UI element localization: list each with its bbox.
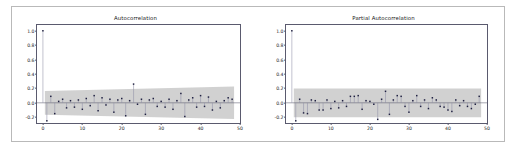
y-tick-label: 0.6 [276, 57, 283, 62]
stem-marker [416, 95, 417, 96]
stem-marker [346, 106, 347, 107]
stem-marker [125, 115, 126, 116]
stem-marker [58, 101, 59, 102]
stem-marker [354, 96, 355, 97]
y-tick-label: 1.0 [27, 28, 34, 33]
stem-marker [200, 95, 201, 96]
y-tick-mark [284, 45, 286, 46]
stem-marker [377, 119, 378, 120]
x-tick-label: 50 [237, 126, 243, 131]
y-tick-label: 0.6 [27, 57, 34, 62]
y-tick-mark [35, 117, 37, 118]
stem-marker [436, 99, 437, 100]
stem-marker [365, 100, 366, 101]
stem-marker [408, 111, 409, 112]
stem-marker [369, 101, 370, 102]
stem-marker [385, 91, 386, 92]
stem-marker [137, 104, 138, 105]
stem-marker [311, 99, 312, 100]
y-tick-label: 0.4 [276, 72, 283, 77]
stem-marker [192, 97, 193, 98]
stem-marker [121, 98, 122, 99]
stem-marker [105, 104, 106, 105]
y-tick-label: 0.0 [27, 100, 34, 105]
y-tick-mark [35, 74, 37, 75]
x-tick-mark [409, 123, 410, 125]
stem-marker [149, 99, 150, 100]
y-tick-mark [284, 74, 286, 75]
stem-marker [443, 106, 444, 107]
x-tick-mark [370, 123, 371, 125]
stem-marker [66, 107, 67, 108]
y-tick-label: 0.2 [27, 86, 34, 91]
stem-marker [89, 105, 90, 106]
y-tick-label: 0.0 [276, 100, 283, 105]
stem-marker [133, 83, 134, 84]
stem-marker [180, 93, 181, 94]
stem-marker [93, 95, 94, 96]
y-tick-label: -0.2 [275, 115, 284, 120]
stem-marker [420, 106, 421, 107]
stem-marker [424, 99, 425, 100]
stem-marker [447, 109, 448, 110]
stem-marker [350, 96, 351, 97]
panel-partial-autocorrelation: Partial Autocorrelation -0.20.00.20.40.6… [259, 7, 506, 143]
y-tick-mark [35, 59, 37, 60]
x-tick-mark [121, 123, 122, 125]
stem-marker [172, 109, 173, 110]
y-tick-mark [284, 102, 286, 103]
stem-marker [168, 98, 169, 99]
stem-marker [184, 116, 185, 117]
stem-marker [50, 96, 51, 97]
stem-marker [389, 114, 390, 115]
y-tick-label: -0.2 [26, 115, 35, 120]
stem-marker [113, 111, 114, 112]
stem-marker [361, 109, 362, 110]
x-tick-mark [331, 123, 332, 125]
stem-marker [475, 104, 476, 105]
stem-marker [153, 98, 154, 99]
stem-marker [400, 96, 401, 97]
stem-marker [338, 107, 339, 108]
stem-marker [478, 96, 479, 97]
y-tick-mark [284, 59, 286, 60]
stem-marker [78, 99, 79, 100]
stem-marker [318, 109, 319, 110]
x-tick-mark [448, 123, 449, 125]
x-tick-label: 30 [406, 126, 412, 131]
x-tick-label: 20 [367, 126, 373, 131]
x-tick-label: 10 [328, 126, 334, 131]
y-tick-mark [284, 117, 286, 118]
stem-marker [393, 99, 394, 100]
stem-marker [471, 108, 472, 109]
stem-marker [97, 110, 98, 111]
stem-marker [330, 108, 331, 109]
x-tick-mark [43, 123, 44, 125]
panel-title-autocorrelation: Autocorrelation [30, 15, 241, 21]
panel-title-partial-autocorrelation: Partial Autocorrelation [279, 15, 488, 21]
stem-marker [220, 107, 221, 108]
x-tick-label: 0 [41, 126, 44, 131]
stem-marker [117, 99, 118, 100]
correlogram-figure: Autocorrelation -0.20.00.20.40.60.81.001… [0, 0, 515, 153]
panel-autocorrelation: Autocorrelation -0.20.00.20.40.60.81.001… [12, 7, 259, 143]
stem-marker [322, 109, 323, 110]
x-tick-mark [161, 123, 162, 125]
x-tick-label: 10 [79, 126, 85, 131]
stem-marker [326, 99, 327, 100]
stem-marker [212, 109, 213, 110]
stem-marker [439, 106, 440, 107]
stem-marker [307, 113, 308, 114]
stem-marker [42, 30, 43, 31]
x-tick-mark [292, 123, 293, 125]
x-tick-label: 40 [445, 126, 451, 131]
plot-svg-partial-autocorrelation [286, 25, 487, 123]
plot-area-partial-autocorrelation [286, 25, 487, 123]
y-tick-label: 0.4 [27, 72, 34, 77]
stem-marker [295, 120, 296, 121]
stem-marker [428, 108, 429, 109]
stem-marker [46, 120, 47, 121]
x-tick-mark [240, 123, 241, 125]
stem-marker [303, 112, 304, 113]
x-tick-mark [82, 123, 83, 125]
